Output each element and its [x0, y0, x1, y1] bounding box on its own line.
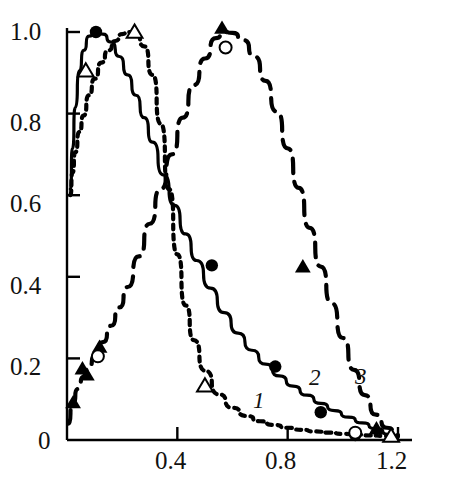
curve-label-3: 3 — [355, 365, 367, 388]
x-tick-label-0.4: 0.4 — [155, 448, 186, 473]
y-tick-label-1.0: 1.0 — [10, 19, 41, 44]
curve-label-2: 2 — [309, 366, 321, 389]
data-curves — [68, 32, 398, 437]
curve-2 — [70, 32, 398, 437]
chart-canvas — [0, 0, 450, 484]
marker-3-open-circle — [92, 350, 104, 362]
y-tick-label-0.4: 0.4 — [10, 273, 41, 298]
marker-3-open-circle — [349, 427, 361, 439]
marker-2-filled-circle — [90, 26, 102, 38]
chart-figure: 1.0 0.8 0.6 0.4 0.2 0 0.4 0.8 1.2 1 2 3 — [0, 0, 450, 484]
y-tick-label-0.2: 0.2 — [10, 354, 41, 379]
curve-3 — [68, 32, 398, 435]
marker-2-filled-circle — [315, 406, 327, 418]
curve-1 — [70, 32, 398, 436]
curve-label-1: 1 — [253, 389, 265, 412]
marker-3-filled-triangle — [295, 259, 311, 272]
x-tick-label-0.8: 0.8 — [265, 448, 296, 473]
y-tick-label-0.8: 0.8 — [10, 110, 41, 135]
y-tick-label-0.6: 0.6 — [10, 191, 41, 216]
marker-3-open-circle — [220, 42, 232, 54]
marker-3-filled-triangle — [214, 20, 230, 33]
x-tick-label-1.2: 1.2 — [376, 448, 407, 473]
marker-2-filled-circle — [269, 360, 281, 372]
marker-2-filled-circle — [206, 259, 218, 271]
data-markers — [65, 20, 399, 441]
y-tick-label-0: 0 — [38, 428, 51, 453]
